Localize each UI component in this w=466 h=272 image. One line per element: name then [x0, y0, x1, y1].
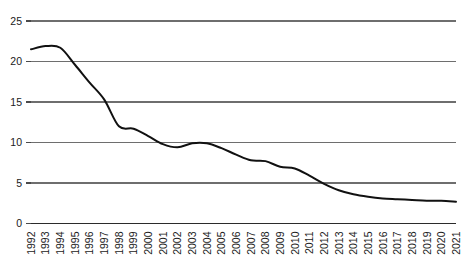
x-tick-label: 2017 [391, 231, 403, 255]
x-tick-label: 2021 [450, 231, 462, 255]
line-chart: 0510152025 19921993199419951996199719981… [0, 0, 466, 272]
x-tick-label: 2019 [420, 231, 432, 255]
y-tick-label: 15 [10, 96, 22, 108]
x-tick-label: 2003 [186, 231, 198, 255]
x-tick-label: 2004 [201, 231, 213, 255]
y-tick-label: 10 [10, 136, 22, 148]
chart-canvas: 0510152025 19921993199419951996199719981… [0, 0, 466, 272]
x-tick-label: 2007 [245, 231, 257, 255]
x-tick-label: 2020 [435, 231, 447, 255]
y-tick-label: 20 [10, 55, 22, 67]
series-line [31, 46, 456, 202]
x-tick-label: 2005 [215, 231, 227, 255]
x-tick-label: 2011 [303, 231, 315, 254]
x-tick-label: 2010 [289, 231, 301, 255]
x-tick-label: 2013 [333, 231, 345, 255]
gridlines [31, 21, 456, 224]
x-tick-label: 2018 [406, 231, 418, 255]
x-tick-label: 2012 [318, 231, 330, 255]
data-series [31, 46, 456, 202]
x-tick-label: 2016 [377, 231, 389, 255]
x-tick-label: 2008 [259, 231, 271, 255]
x-tick-label: 2006 [230, 231, 242, 255]
x-tick-label: 1996 [83, 231, 95, 255]
y-tick-label: 25 [10, 15, 22, 27]
x-tick-label: 2014 [347, 231, 359, 255]
x-tick-label: 1993 [39, 231, 51, 255]
x-tick-label: 2015 [362, 231, 374, 255]
x-tick-label: 2002 [171, 231, 183, 255]
x-axis: 1992199319941995199619971998199920002001… [25, 231, 462, 255]
x-tick-label: 1995 [69, 231, 81, 255]
x-tick-label: 1997 [98, 231, 110, 255]
x-tick-label: 1998 [113, 231, 125, 255]
x-tick-label: 2009 [274, 231, 286, 255]
y-axis: 0510152025 [10, 15, 31, 230]
x-tick-label: 2000 [142, 231, 154, 255]
y-tick-label: 5 [16, 177, 22, 189]
x-tick-label: 1992 [25, 231, 37, 255]
x-tick-label: 1994 [54, 231, 66, 255]
y-tick-label: 0 [16, 217, 22, 229]
x-tick-label: 1999 [127, 231, 139, 255]
x-tick-label: 2001 [157, 231, 169, 255]
